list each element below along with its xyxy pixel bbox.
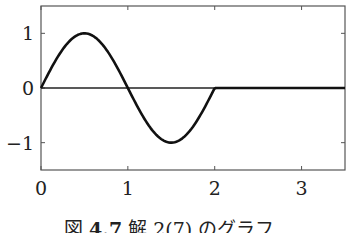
caption-text: 解 2(7) のグラフ — [128, 218, 274, 233]
y-tick-label: 0 — [22, 77, 34, 99]
y-tick-label: 1 — [22, 22, 34, 44]
x-tick-label: 2 — [209, 177, 221, 199]
figure-caption: 図 4.7 解 2(7) のグラフ — [64, 214, 274, 233]
chart: 0123 −101 — [0, 0, 350, 233]
figure-label: 図 — [64, 218, 83, 233]
x-tick-label: 3 — [296, 177, 308, 199]
figure-number: 4.7 — [89, 218, 122, 233]
y-tick-label: −1 — [6, 132, 34, 154]
x-tick-label: 1 — [122, 177, 134, 199]
x-tick-label: 0 — [35, 177, 47, 199]
